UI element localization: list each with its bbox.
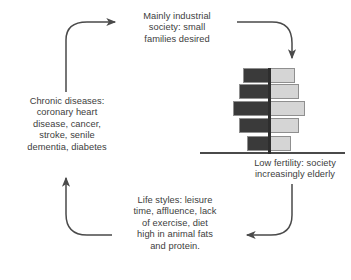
pyramid-bar-male-bottom [247,136,269,151]
pyramid-bar-female-lower-middle [269,118,299,133]
node-label-industrial-society: Mainly industrial society: small familie… [125,11,229,45]
pyramid-baseline-axis [200,152,345,154]
pyramid-center-axis [268,68,271,154]
node-label-low-fertility: Low fertility: society increasingly elde… [243,158,347,181]
node-label-life-styles: Life styles: leisure time, affluence, la… [120,195,230,252]
pyramid-bar-female-upper-middle [269,84,299,99]
pyramid-bar-female-middle [269,101,305,116]
diagram-canvas: Mainly industrial society: small familie… [0,0,351,280]
arrow-lifestyle-to-chronic [66,178,112,235]
population-pyramid-chart [200,68,345,158]
pyramid-bar-male-middle [233,101,269,116]
pyramid-bar-male-top [243,68,269,83]
pyramid-bar-female-top [269,68,295,83]
pyramid-bar-male-upper-middle [239,84,269,99]
arrow-chronic-to-industrial [66,22,115,92]
arrow-industrial-to-fertility [237,22,292,58]
node-label-chronic-diseases: Chronic diseases: coronary heart disease… [8,96,126,153]
arrow-fertility-to-lifestyle [247,184,292,235]
pyramid-bar-female-bottom [269,136,291,151]
pyramid-bar-male-lower-middle [239,118,269,133]
